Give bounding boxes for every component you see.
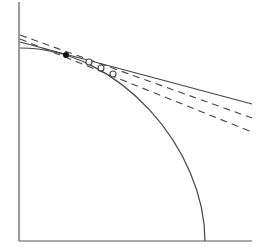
open-point [98,65,104,71]
tangent-arc-diagram [0,0,272,251]
open-point [110,71,116,77]
filled-point [63,52,69,58]
tangent-line-dashed [20,39,252,132]
tangent-line-dashed [20,35,252,118]
diagram-canvas [0,0,272,251]
tangent-line-solid [20,42,252,104]
open-point [86,59,92,65]
